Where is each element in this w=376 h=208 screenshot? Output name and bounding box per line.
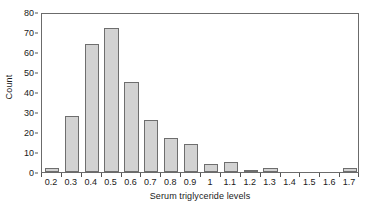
x-tick-label: 1.5 — [303, 177, 316, 187]
y-tick-label: 10 — [24, 148, 34, 158]
histogram-bar — [164, 138, 178, 172]
x-tick-label: 1.1 — [224, 177, 237, 187]
histogram-bar — [144, 120, 158, 172]
histogram-bar — [45, 168, 59, 172]
x-tick-label: 1.6 — [323, 177, 336, 187]
y-tick-mark — [35, 113, 38, 114]
histogram-bar — [263, 168, 277, 172]
x-tick-label: 1.4 — [283, 177, 296, 187]
x-tick-label: 0.2 — [45, 177, 58, 187]
y-tick-mark — [35, 33, 38, 34]
histogram-bar — [204, 164, 218, 172]
x-tick-label: 0.8 — [164, 177, 177, 187]
histogram-bar — [85, 44, 99, 172]
x-tick-label: 0.9 — [184, 177, 197, 187]
plot-area — [41, 13, 359, 173]
y-tick-mark — [35, 53, 38, 54]
y-tick-label: 0 — [29, 168, 34, 178]
x-tick-label: 0.3 — [65, 177, 78, 187]
x-tick-label: 1.3 — [263, 177, 276, 187]
x-tick-label: 1.7 — [343, 177, 356, 187]
histogram-bar — [104, 28, 118, 172]
y-tick-label: 30 — [24, 108, 34, 118]
histogram-bar — [244, 170, 258, 172]
histogram-bar — [184, 144, 198, 172]
histogram-bar — [224, 162, 238, 172]
y-tick-mark — [35, 13, 38, 14]
y-tick-mark — [35, 153, 38, 154]
histogram-bar — [65, 116, 79, 172]
y-tick-label: 20 — [24, 128, 34, 138]
x-tick-label: 0.7 — [144, 177, 157, 187]
y-axis-ticks: 01020304050607080 — [14, 13, 38, 173]
y-tick-mark — [35, 93, 38, 94]
x-tick-label: 1 — [207, 177, 212, 187]
y-tick-mark — [35, 73, 38, 74]
bar-series — [42, 14, 358, 172]
x-axis-tick-labels: 0.20.30.40.50.60.70.80.911.11.21.31.41.5… — [41, 177, 359, 191]
histogram-bar — [343, 168, 357, 172]
x-tick-label: 1.2 — [243, 177, 256, 187]
y-axis-title-text: Count — [4, 74, 14, 99]
x-tick-label: 0.4 — [84, 177, 97, 187]
x-axis-title: Serum triglyceride levels — [41, 191, 359, 201]
y-tick-label: 40 — [24, 88, 34, 98]
y-tick-mark — [35, 173, 38, 174]
y-tick-label: 60 — [24, 48, 34, 58]
x-tick-label: 0.6 — [124, 177, 137, 187]
y-tick-mark — [35, 133, 38, 134]
x-tick-label: 0.5 — [104, 177, 117, 187]
histogram-bar — [124, 82, 138, 172]
histogram-figure: Count 01020304050607080 0.20.30.40.50.60… — [0, 0, 376, 208]
y-tick-label: 80 — [24, 8, 34, 18]
y-tick-label: 50 — [24, 68, 34, 78]
y-tick-label: 70 — [24, 28, 34, 38]
